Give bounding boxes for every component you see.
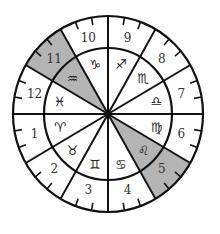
- sign-glyph-scorpio-icon: ♏︎: [137, 71, 149, 86]
- tick-mark: [190, 145, 197, 148]
- house-number-11: 11: [47, 52, 62, 66]
- tick-mark: [14, 97, 21, 98]
- house-number-8: 8: [158, 52, 166, 66]
- tick-mark: [175, 51, 181, 56]
- house-number-4: 4: [124, 183, 132, 197]
- zodiac-wheel: 1♈︎2♉︎3♊︎4♋︎5♌︎6♍︎7♎︎8♏︎9♐︎10♑︎11♒︎12♓︎: [0, 0, 220, 234]
- tick-mark: [92, 203, 93, 211]
- house-number-1: 1: [31, 127, 39, 141]
- sign-glyph-pisces-icon: ♓︎: [54, 94, 66, 109]
- tick-mark: [194, 97, 201, 98]
- wheel-lines: [13, 16, 203, 212]
- house-number-5: 5: [158, 162, 166, 176]
- sign-glyph-leo-icon: ♌︎: [137, 143, 149, 158]
- house-number-3: 3: [85, 183, 93, 197]
- tick-mark: [47, 183, 52, 189]
- tick-mark: [76, 199, 79, 206]
- tick-mark: [123, 203, 124, 211]
- sign-glyph-libra-icon: ♎︎: [150, 94, 162, 109]
- tick-mark: [35, 172, 41, 177]
- house-number-7: 7: [178, 87, 186, 101]
- sign-glyph-capricorn-icon: ♑︎: [89, 57, 101, 72]
- tick-mark: [92, 17, 93, 25]
- house-number-9: 9: [124, 31, 132, 45]
- tick-mark: [138, 22, 141, 29]
- sign-glyph-aquarius-icon: ♒︎: [67, 71, 79, 86]
- sign-glyph-cancer-icon: ♋︎: [115, 157, 127, 172]
- house-number-6: 6: [178, 127, 186, 141]
- house-number-2: 2: [50, 162, 58, 176]
- sign-glyph-taurus-icon: ♉︎: [67, 143, 79, 158]
- tick-mark: [123, 17, 124, 25]
- sign-glyph-virgo-icon: ♍︎: [150, 120, 162, 135]
- house-number-12: 12: [27, 87, 42, 101]
- tick-mark: [19, 80, 26, 83]
- tick-mark: [14, 130, 21, 131]
- tick-mark: [19, 145, 26, 148]
- tick-mark: [164, 39, 169, 45]
- center-point: [106, 112, 111, 117]
- sign-glyph-sagittarius-icon: ♐︎: [115, 57, 127, 72]
- sign-glyph-aries-icon: ♈︎: [54, 120, 66, 135]
- tick-mark: [138, 199, 141, 206]
- tick-mark: [76, 22, 79, 29]
- sign-glyph-gemini-icon: ♊︎: [89, 157, 101, 172]
- house-number-10: 10: [81, 31, 96, 45]
- tick-mark: [194, 130, 201, 131]
- tick-mark: [190, 80, 197, 83]
